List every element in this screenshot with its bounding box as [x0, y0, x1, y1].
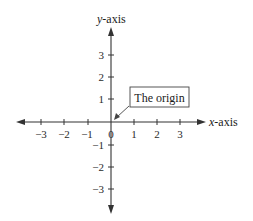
y-axis-label: y-axis — [96, 12, 126, 26]
origin-label: 0 — [108, 128, 114, 140]
x-tick-label: −2 — [58, 128, 70, 140]
y-tick-label: −2 — [92, 161, 104, 173]
y-tick-label: 2 — [99, 71, 105, 83]
x-axis-right-arrow-icon — [197, 119, 206, 125]
x-axis-left-arrow-icon — [16, 119, 25, 125]
x-axis-label: x-axis — [208, 115, 238, 129]
x-tick-label: 3 — [177, 128, 183, 140]
y-axis-label-suffix: -axis — [102, 12, 126, 26]
origin-callout: The origin — [114, 87, 189, 120]
y-tick-label: 3 — [99, 49, 105, 61]
callout-text: The origin — [134, 91, 184, 105]
x-tick-label: −1 — [81, 128, 93, 140]
callout-pointer-line — [117, 106, 129, 117]
x-axis-label-suffix: -axis — [214, 115, 238, 129]
callout-arrow-icon — [114, 113, 120, 120]
y-tick-label: −1 — [92, 139, 104, 151]
y-tick-label: −3 — [92, 183, 104, 195]
y-axis-up-arrow-icon — [108, 27, 114, 36]
x-tick-label: 1 — [131, 128, 137, 140]
x-tick-label: −3 — [35, 128, 47, 140]
coordinate-plane: −3 −2 −1 1 2 3 0 3 2 1 −1 −2 −3 y-axis x… — [0, 0, 253, 221]
y-axis-down-arrow-icon — [108, 205, 114, 214]
y-tick-label: 1 — [99, 93, 105, 105]
x-tick-label: 2 — [154, 128, 160, 140]
